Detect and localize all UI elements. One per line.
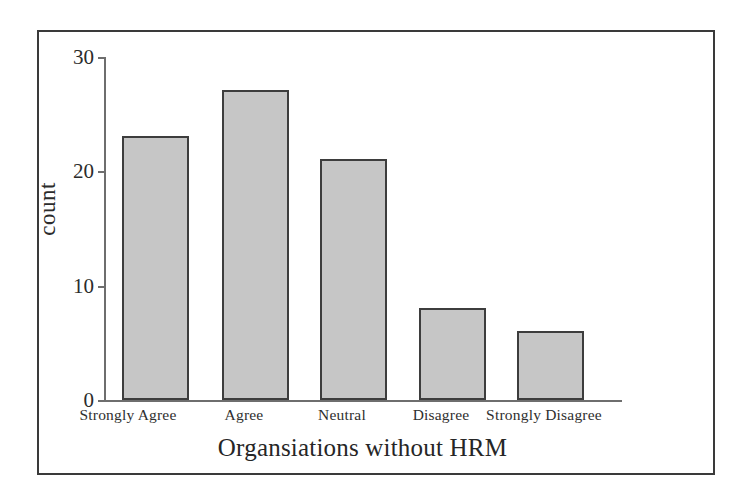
y-axis-title: count [35, 149, 61, 269]
bar-agree [222, 90, 289, 401]
x-category-label-strongly-agree: Strongly Agree [62, 406, 194, 423]
x-category-label-strongly-disagree: Strongly Disagree [459, 406, 629, 423]
bar-neutral [320, 159, 387, 401]
y-tick-label-30: 30 [40, 47, 94, 68]
bar-strongly-agree [122, 136, 189, 401]
bar-strongly-disagree [517, 331, 584, 400]
y-tick-label-10: 10 [40, 276, 94, 297]
bar-chart-figure: 30 20 10 0 count Strongly Agree Agree Ne… [0, 0, 748, 503]
bar-disagree [419, 308, 486, 400]
x-category-label-agree: Agree [189, 406, 299, 423]
x-category-label-neutral: Neutral [287, 406, 397, 423]
plot-area [105, 55, 620, 400]
x-axis-line [104, 400, 622, 402]
x-axis-title: Organsiations without HRM [105, 434, 620, 462]
